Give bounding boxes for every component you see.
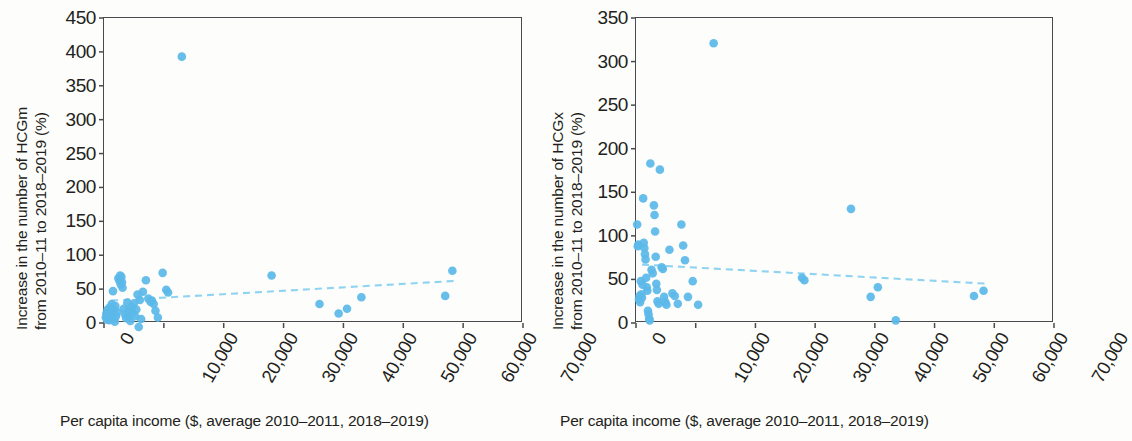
y-tick-label: 300	[597, 52, 628, 71]
scatter-canvas-hcgm	[104, 18, 523, 323]
data-point	[694, 300, 703, 309]
data-point	[633, 220, 642, 229]
data-point	[639, 194, 648, 203]
data-point	[267, 271, 276, 280]
data-point	[139, 288, 148, 297]
panel-hcgm: Increase in the number of HCGm from 2010…	[0, 0, 534, 441]
y-tick-label: 350	[597, 8, 628, 27]
data-point	[656, 165, 665, 174]
y-tick-label: 0	[618, 313, 628, 332]
data-point	[709, 39, 718, 48]
x-tick-label: 20,000	[790, 330, 833, 386]
data-point	[132, 305, 141, 314]
x-tick-label: 10,000	[199, 330, 242, 386]
panel-hcgx: Increase in the number of HCGx from 2010…	[534, 0, 1069, 441]
y-tick-label: 400	[65, 42, 96, 61]
data-point	[800, 276, 809, 285]
data-point	[970, 292, 979, 301]
data-point	[677, 220, 686, 229]
data-point	[357, 293, 366, 302]
x-tick-label: 10,000	[731, 330, 774, 386]
data-point	[334, 309, 343, 318]
plot-area-hcgm	[103, 17, 522, 322]
y-tick-label: 250	[65, 144, 96, 163]
data-point	[645, 316, 654, 325]
data-point	[648, 269, 657, 278]
data-point	[674, 300, 683, 309]
data-point	[343, 304, 352, 313]
x-tick-label: 50,000	[438, 330, 481, 386]
data-point	[136, 296, 145, 305]
y-tick-label: 50	[76, 279, 96, 298]
data-point	[448, 267, 457, 276]
data-point	[118, 283, 127, 292]
data-point	[874, 283, 883, 292]
data-point	[847, 205, 856, 214]
y-tick-label: 150	[65, 211, 96, 230]
x-tick-label: 0	[117, 330, 138, 348]
y-tick-label: 200	[65, 177, 96, 196]
x-tick-label: 40,000	[910, 330, 953, 386]
data-point	[643, 286, 652, 295]
data-point	[137, 315, 146, 324]
y-tick-label: 100	[597, 226, 628, 245]
data-point	[441, 292, 450, 301]
y-tick-label: 0	[86, 313, 96, 332]
data-point	[684, 293, 693, 302]
data-point	[665, 246, 674, 255]
data-point	[650, 201, 659, 210]
data-point	[679, 241, 688, 250]
data-point	[681, 256, 690, 265]
data-point	[641, 255, 650, 264]
x-tick-label: 30,000	[850, 330, 893, 386]
y-axis-title-hcgm: Increase in the number of HCGm from 2010…	[12, 0, 50, 330]
y-tick-label: 100	[65, 245, 96, 264]
data-point	[109, 287, 118, 296]
x-axis-title-hcgm: Per capita income ($, average 2010–2011,…	[60, 412, 429, 430]
data-point	[142, 276, 151, 285]
x-tick-label: 40,000	[378, 330, 421, 386]
y-tick-label: 50	[608, 269, 628, 288]
data-point	[659, 265, 668, 274]
data-point	[651, 252, 660, 261]
data-point	[688, 277, 697, 286]
data-point	[866, 293, 875, 302]
data-point	[651, 227, 660, 236]
data-point	[662, 300, 671, 309]
data-point	[154, 313, 163, 322]
x-tick-label: 60,000	[1029, 330, 1072, 386]
scatter-canvas-hcgx	[636, 18, 1054, 323]
data-point	[158, 269, 167, 278]
data-point	[979, 286, 988, 295]
y-tick-label: 300	[65, 110, 96, 129]
data-point	[650, 211, 659, 220]
y-tick-label: 350	[65, 76, 96, 95]
x-axis-title-hcgx: Per capita income ($, average 2010–2011,…	[560, 412, 929, 430]
data-point	[671, 292, 680, 301]
y-tick-label: 250	[597, 95, 628, 114]
y-tick-label: 450	[65, 8, 96, 27]
data-point	[164, 288, 173, 297]
x-tick-label: 20,000	[259, 330, 302, 386]
y-tick-label: 150	[597, 182, 628, 201]
data-point	[891, 316, 900, 325]
x-tick-label: 70,000	[1089, 330, 1132, 386]
y-tick-label: 200	[597, 139, 628, 158]
plot-area-hcgx	[635, 17, 1053, 322]
x-tick-label: 50,000	[969, 330, 1012, 386]
data-point	[638, 293, 647, 302]
data-point	[646, 159, 655, 168]
data-point	[315, 300, 324, 309]
data-point	[653, 286, 662, 295]
data-point	[178, 52, 187, 61]
x-tick-label: 30,000	[318, 330, 361, 386]
x-tick-label: 0	[649, 330, 670, 348]
data-point	[134, 323, 143, 332]
y-axis-title-hcgx: Increase in the number of HCGx from 2010…	[548, 0, 586, 330]
